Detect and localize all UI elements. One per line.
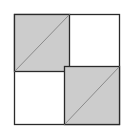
diagram-figure [0, 0, 130, 132]
